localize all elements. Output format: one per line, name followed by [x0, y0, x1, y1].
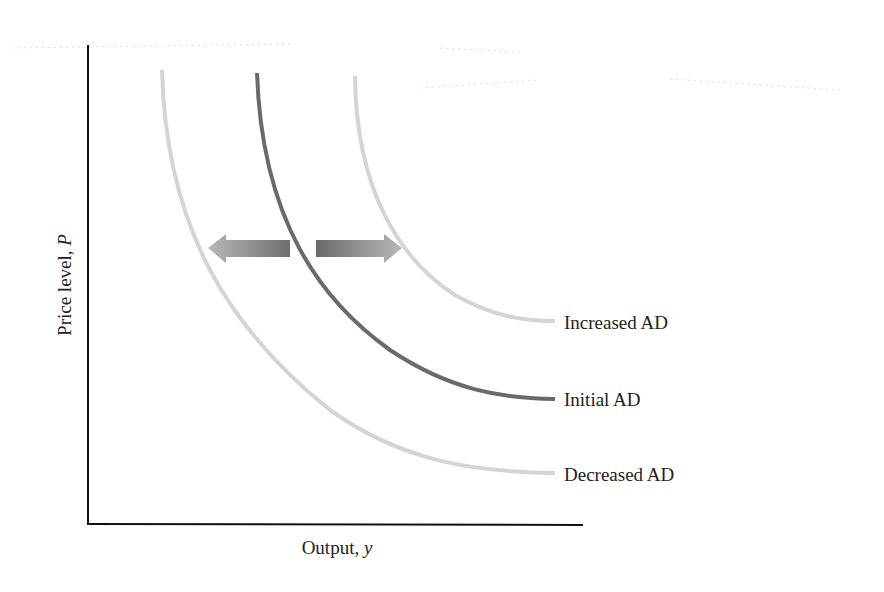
- decreased-ad-label: Decreased AD: [564, 465, 674, 484]
- y-axis-variable: P: [54, 234, 75, 246]
- x-axis-label: Output, y: [302, 538, 373, 557]
- x-axis-variable: y: [364, 537, 372, 558]
- arrow-left-icon: [208, 234, 290, 263]
- y-axis-label-text: Price level,: [54, 246, 75, 336]
- increased-ad-curve: [355, 76, 555, 321]
- x-axis: [87, 524, 583, 525]
- y-axis-label: Price level, P: [55, 234, 74, 336]
- scan-artifacts: [12, 44, 840, 90]
- ad-shift-diagram: [0, 0, 884, 592]
- initial-ad-label: Initial AD: [564, 390, 641, 409]
- x-axis-label-text: Output,: [302, 537, 364, 558]
- increased-ad-label: Increased AD: [564, 313, 668, 332]
- initial-ad-curve: [257, 73, 555, 399]
- arrow-right-icon: [316, 234, 402, 263]
